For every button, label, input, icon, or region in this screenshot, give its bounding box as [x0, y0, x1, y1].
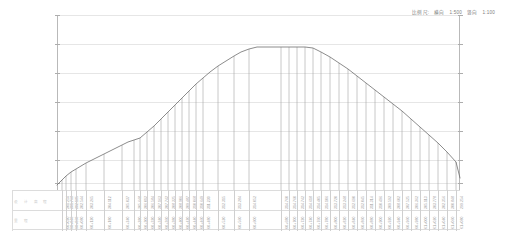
table-column-divider [234, 190, 235, 231]
chainage-label: K1+000 [424, 217, 428, 229]
profile-line [57, 15, 460, 190]
table-column-divider [305, 190, 306, 231]
elevation-label: 305.113 [424, 196, 428, 209]
elevation-label: 314.106 [325, 196, 329, 209]
chainage-label: K0+520 [222, 217, 226, 229]
elevation-label: 308.602 [397, 196, 401, 209]
chainage-label: K0+840 [352, 217, 356, 229]
chainage-label: K0+820 [343, 217, 347, 229]
table-column-divider [122, 190, 123, 231]
elevation-label: 299.254 [460, 196, 464, 209]
elevation-label: 314.052 [253, 196, 257, 209]
elevation-label: 311.314 [370, 196, 374, 209]
chainage-label: K1+040 [442, 217, 446, 229]
elevation-label: 305.037 [126, 196, 130, 209]
elevation-label: 310.496 [379, 196, 383, 209]
row-label-elevation: 设 计 高 程 [14, 198, 50, 203]
elevation-label: 306.362 [415, 196, 419, 209]
table-column-divider [147, 190, 148, 231]
table-column-divider [161, 190, 162, 231]
table-column-divider [456, 190, 457, 231]
elevation-label: 313.248 [343, 196, 347, 209]
elevation-label: 304.112 [108, 196, 112, 209]
table-column-divider [366, 190, 367, 231]
elevation-label: 313.720 [334, 196, 338, 209]
chainage-label: K1+020 [433, 217, 437, 229]
table-column-divider [66, 190, 67, 231]
table-column-divider [375, 190, 376, 231]
table-column-divider [168, 190, 169, 231]
table-column-divider [321, 190, 322, 231]
elevation-label: 303.265 [90, 196, 94, 209]
chainage-label: K0+940 [397, 217, 401, 229]
elevation-label: 303.778 [433, 196, 437, 209]
elevation-label: 307.525 [406, 196, 410, 209]
table-column-divider [420, 190, 421, 231]
table-column-divider [281, 190, 282, 231]
table-column-divider [402, 190, 403, 231]
scale-horizontal-value: 1:500 [450, 10, 463, 15]
chainage-label: K0+900 [379, 217, 383, 229]
elevation-label: 312.690 [352, 196, 356, 209]
table-column-divider [297, 190, 298, 231]
chainage-label: K0+780 [325, 217, 329, 229]
chainage-label: K0+880 [370, 217, 374, 229]
chainage-label: K0+240 [126, 217, 130, 229]
chainage-label: K0+800 [334, 217, 338, 229]
table-column-divider [249, 190, 250, 231]
table-column-divider [289, 190, 290, 231]
elevation-label: 302.356 [442, 196, 446, 209]
table-column-divider [134, 190, 135, 231]
table-column-divider [196, 190, 197, 231]
chainage-label: K0+600 [253, 217, 257, 229]
profile-path [57, 47, 460, 185]
chainage-label: K0+480 [207, 217, 211, 229]
scale-vertical-key: 竖向 [467, 9, 477, 15]
table-column-divider [62, 190, 63, 231]
table-column-divider [393, 190, 394, 231]
chainage-label: K0+080 [80, 217, 84, 229]
table-column-divider [411, 190, 412, 231]
elevation-label: 312.315 [222, 196, 226, 209]
table-column-divider [339, 190, 340, 231]
table-column-divider [154, 190, 155, 231]
table-column-divider [330, 190, 331, 231]
table-column-divider [76, 190, 77, 231]
elevation-label: 309.592 [388, 196, 392, 209]
elevation-label: 312.045 [361, 196, 365, 209]
table-column-divider [71, 190, 72, 231]
chainage-label: K0+860 [361, 217, 365, 229]
table-column-divider [357, 190, 358, 231]
chainage-label: K0+560 [238, 217, 242, 229]
table-column-divider [175, 190, 176, 231]
elevation-label: 311.230 [207, 196, 211, 209]
table-column-divider [218, 190, 219, 231]
elevation-label: 313.284 [238, 196, 242, 209]
table-column-divider [104, 190, 105, 231]
table-column-divider [438, 190, 439, 231]
scale-vertical-value: 1:100 [483, 10, 496, 15]
table-column-divider [203, 190, 204, 231]
station-data-table: 设 计 高 程 里 程 301.254K0+020301.768K0+04030… [12, 190, 460, 231]
table-column-divider [140, 190, 141, 231]
profile-drawing-canvas: 比例尺: 横向 1:500 竖向 1:100 设 计 高 程 里 程 301.2… [0, 0, 513, 246]
table-column-divider [313, 190, 314, 231]
chainage-label: K0+180 [108, 217, 112, 229]
table-column-divider [348, 190, 349, 231]
table-column-divider [189, 190, 190, 231]
chainage-label: K0+980 [415, 217, 419, 229]
chainage-label: K0+920 [388, 217, 392, 229]
table-column-divider [86, 190, 87, 231]
chainage-label: K1+060 [451, 217, 455, 229]
elevation-label: 300.848 [451, 196, 455, 209]
table-column-divider [182, 190, 183, 231]
chainage-label: K0+960 [406, 217, 410, 229]
elevation-label: 302.544 [80, 196, 84, 209]
table-column-divider [447, 190, 448, 231]
row-label-chainage: 里 程 [14, 218, 30, 223]
profile-plot-area [57, 15, 460, 190]
chainage-label: K1+080 [460, 217, 464, 229]
table-column-divider [384, 190, 385, 231]
table-column-divider [429, 190, 430, 231]
chainage-label: K0+120 [90, 217, 94, 229]
